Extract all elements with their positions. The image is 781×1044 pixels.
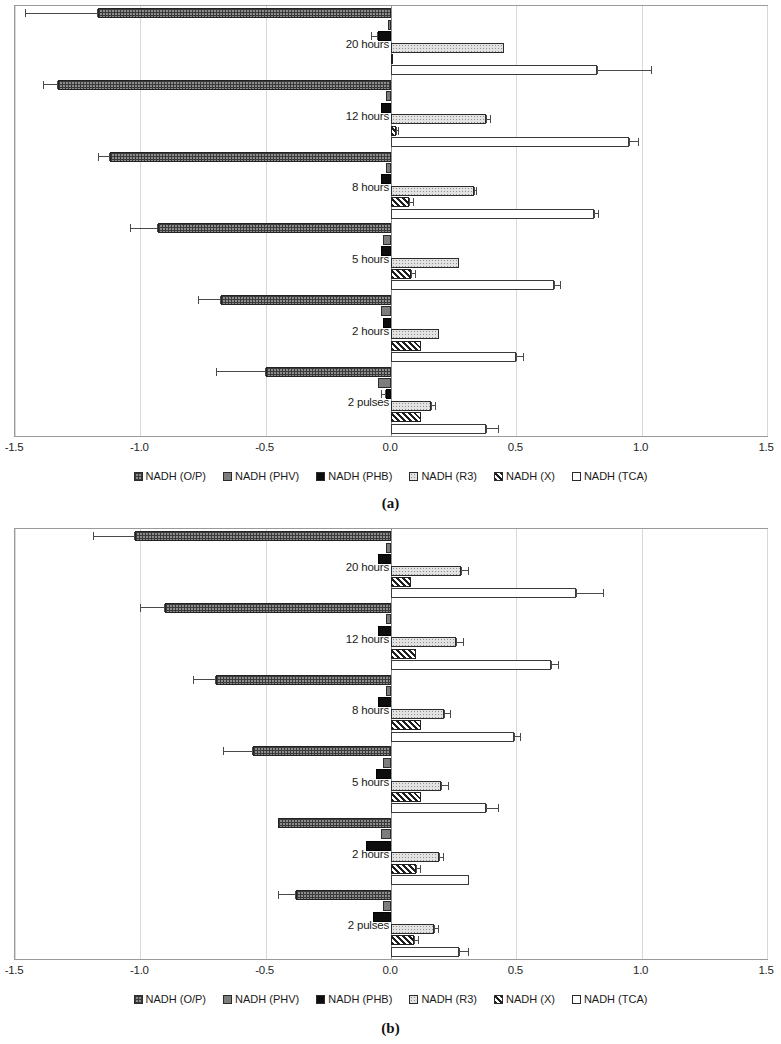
bar [381, 306, 391, 316]
axis-tick-label: 1.0 [633, 964, 648, 976]
legend-swatch-icon [223, 995, 232, 1004]
bar-row [15, 280, 767, 290]
bar-row [15, 543, 767, 553]
bar-row [15, 341, 767, 351]
category-label: 8 hours [269, 704, 389, 716]
bar [391, 577, 411, 587]
axis-tick-label: -1.5 [5, 964, 24, 976]
legend-swatch-icon [409, 995, 418, 1004]
bar [391, 637, 456, 647]
bar [391, 54, 393, 64]
chart-panel-a: 20 hours12 hours8 hours5 hours2 hours2 p… [0, 0, 781, 520]
bar [296, 890, 391, 900]
bar [391, 660, 551, 670]
legend-label: NADH (TCA) [584, 470, 648, 482]
bar-row [15, 329, 767, 339]
legend-swatch-icon [494, 472, 503, 481]
legend-swatch-icon [134, 995, 143, 1004]
error-bar [198, 295, 221, 305]
axis-tick-label: -1.0 [130, 441, 149, 453]
bar-group: 2 hours [15, 293, 767, 365]
legend-item: NADH (PHV) [223, 993, 299, 1005]
bar-row [15, 758, 767, 768]
bar [386, 686, 391, 696]
bar-group: 8 hours [15, 149, 767, 221]
error-bar [130, 223, 158, 233]
bar-group: 20 hours [15, 529, 767, 601]
bar-row [15, 295, 767, 305]
bar-row [15, 626, 767, 636]
error-bar [409, 197, 414, 207]
category-label: 2 pulses [269, 919, 389, 931]
bar [391, 803, 486, 813]
error-bar [594, 209, 599, 219]
bar [58, 80, 391, 90]
bar [391, 852, 439, 862]
bar-row [15, 186, 767, 196]
bar-row [15, 709, 767, 719]
error-bar [93, 531, 136, 541]
bar [391, 65, 597, 75]
bar-row [15, 588, 767, 598]
bar-row [15, 732, 767, 742]
panel-b-caption: (b) [0, 1020, 781, 1037]
bar [386, 91, 391, 101]
bar [391, 947, 459, 957]
category-label: 2 hours [269, 325, 389, 337]
legend-item: NADH (R3) [409, 993, 477, 1005]
axis-tick-label: 0.0 [382, 964, 397, 976]
bar [253, 746, 391, 756]
bar-row [15, 306, 767, 316]
error-bar [461, 566, 469, 576]
bar-row [15, 114, 767, 124]
bar [216, 675, 391, 685]
bar [391, 649, 416, 659]
error-bar [597, 65, 652, 75]
bar [98, 8, 391, 18]
error-bar [416, 864, 421, 874]
legend-item: NADH (PHV) [223, 470, 299, 482]
error-bar [98, 152, 111, 162]
category-label: 12 hours [269, 633, 389, 645]
bar [391, 720, 421, 730]
legend-label: NADH (R3) [421, 993, 477, 1005]
legend-label: NADH (X) [506, 993, 555, 1005]
error-bar [551, 660, 559, 670]
x-axis-b: -1.5-1.0-0.50.00.51.01.5 [14, 964, 768, 980]
category-label: 20 hours [269, 561, 389, 573]
category-label: 5 hours [269, 253, 389, 265]
error-bar [459, 947, 469, 957]
bar-row [15, 152, 767, 162]
bar [266, 367, 391, 377]
error-bar [516, 352, 524, 362]
bar-row [15, 841, 767, 851]
legend-item: NADH (X) [494, 470, 555, 482]
bar-row [15, 246, 767, 256]
bar-row [15, 137, 767, 147]
bar-row [15, 352, 767, 362]
error-bar [439, 852, 444, 862]
gridline [767, 6, 768, 436]
bar-row [15, 43, 767, 53]
axis-tick-label: 0.5 [508, 964, 523, 976]
legend-label: NADH (PHV) [235, 993, 299, 1005]
bar-row [15, 65, 767, 75]
error-bar [444, 709, 452, 719]
axis-tick-label: 0.5 [508, 441, 523, 453]
bar-group: 20 hours [15, 6, 767, 78]
bar-row [15, 614, 767, 624]
plot-area-a: 20 hours12 hours8 hours5 hours2 hours2 p… [14, 5, 768, 437]
legend-swatch-icon [409, 472, 418, 481]
legend-item: NADH (PHB) [316, 993, 392, 1005]
category-label: 20 hours [269, 38, 389, 50]
bar [391, 401, 431, 411]
bar [165, 603, 391, 613]
bar-row [15, 378, 767, 388]
error-bar [414, 935, 419, 945]
category-label: 8 hours [269, 181, 389, 193]
bar-group: 2 hours [15, 816, 767, 888]
bar [391, 137, 629, 147]
bar-row [15, 197, 767, 207]
bar-row [15, 566, 767, 576]
error-bar [514, 732, 522, 742]
